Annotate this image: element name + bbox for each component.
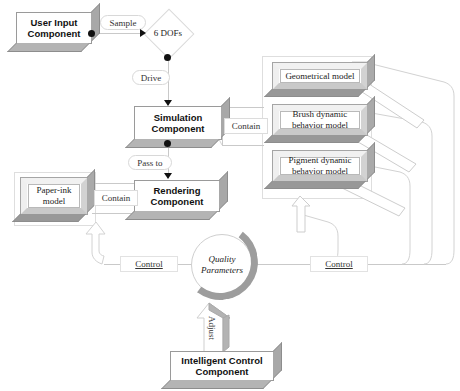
arrowhead-drive	[164, 100, 172, 106]
node-pigment-dynamic-model[interactable]: Pigment dynamic behavior model	[272, 150, 368, 182]
arrowhead-pass-to	[164, 173, 172, 179]
model-inner: Pigment dynamic behavior model	[280, 157, 360, 175]
node-user-input-label: User Input Component	[26, 17, 83, 40]
label-control-left: Control	[120, 256, 178, 272]
pigment-model-label: Pigment dynamic behavior model	[288, 155, 351, 177]
node-six-dofs[interactable]: 6 DOFs	[144, 9, 192, 57]
arrowhead-sample	[140, 29, 146, 37]
node-rendering-component[interactable]: Rendering Component	[134, 180, 220, 212]
node-brush-dynamic-model[interactable]: Brush dynamic behavior model	[272, 104, 368, 136]
label-contain-paper-ink: Contain	[94, 190, 138, 206]
line-contain-models-bottom	[222, 145, 264, 146]
node-rendering-label: Rendering Component	[149, 185, 206, 208]
model-inner: Geometrical model	[280, 69, 360, 83]
label-drive: Drive	[132, 70, 170, 85]
geometrical-model-label: Geometrical model	[285, 71, 354, 82]
node-user-input-component[interactable]: User Input Component	[16, 12, 92, 44]
label-sample: Sample	[100, 15, 146, 30]
label-control-right: Control	[310, 256, 368, 272]
node-paper-ink-model[interactable]: Paper-ink model	[20, 177, 88, 215]
model-inner: Paper-ink model	[28, 184, 80, 208]
node-simulation-label: Simulation Component	[150, 112, 207, 135]
model-inner: Brush dynamic behavior model	[280, 111, 360, 129]
diagram-canvas: User Input Component Sample 6 DOFs Drive…	[0, 0, 460, 391]
paper-ink-model-label: Paper-ink model	[37, 185, 72, 207]
connector-dot-six-dofs	[164, 54, 171, 61]
label-contain-models: Contain	[224, 118, 268, 134]
quality-parameters-label: Quality Parameters	[201, 254, 243, 276]
node-quality-parameters[interactable]: Quality Parameters	[191, 234, 253, 296]
node-intelligent-control-label: Intelligent Control Component	[179, 355, 264, 378]
node-simulation-component[interactable]: Simulation Component	[134, 106, 222, 140]
label-adjust: Adjust	[207, 316, 217, 340]
connector-dot-simulation	[164, 140, 171, 147]
label-pass-to: Pass to	[128, 155, 172, 170]
block-arrow-control-models-frame	[292, 196, 310, 232]
connector-dot-user-input	[88, 30, 95, 37]
block-arrow-control-paper-ink	[86, 222, 105, 264]
node-intelligent-control-component[interactable]: Intelligent Control Component	[170, 351, 274, 381]
brush-model-label: Brush dynamic behavior model	[292, 109, 348, 131]
six-dofs-label: 6 DOFs	[144, 9, 192, 57]
node-geometrical-model[interactable]: Geometrical model	[272, 62, 368, 90]
